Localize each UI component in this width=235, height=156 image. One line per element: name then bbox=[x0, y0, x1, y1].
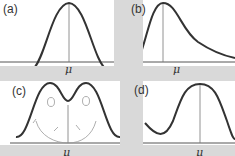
panel-a: (a) bbox=[0, 0, 114, 66]
symmetric-curve-d bbox=[143, 81, 235, 145]
skewed-curve-b bbox=[143, 0, 235, 66]
mu-label-b: μ bbox=[173, 63, 180, 76]
panel-d: (d) bbox=[143, 81, 235, 145]
mu-label-d: μ bbox=[196, 146, 203, 156]
panel-label-c: (c) bbox=[12, 84, 26, 98]
panel-label-a: (a) bbox=[3, 2, 18, 16]
face-sketch bbox=[33, 97, 96, 144]
panel-label-d: (d) bbox=[134, 83, 149, 97]
mu-label-a: μ bbox=[65, 63, 72, 76]
panel-b: (b) bbox=[143, 0, 235, 66]
mu-label-c: μ bbox=[63, 146, 70, 156]
panel-c: (c) bbox=[0, 81, 120, 145]
panel-label-b: (b) bbox=[131, 2, 146, 16]
